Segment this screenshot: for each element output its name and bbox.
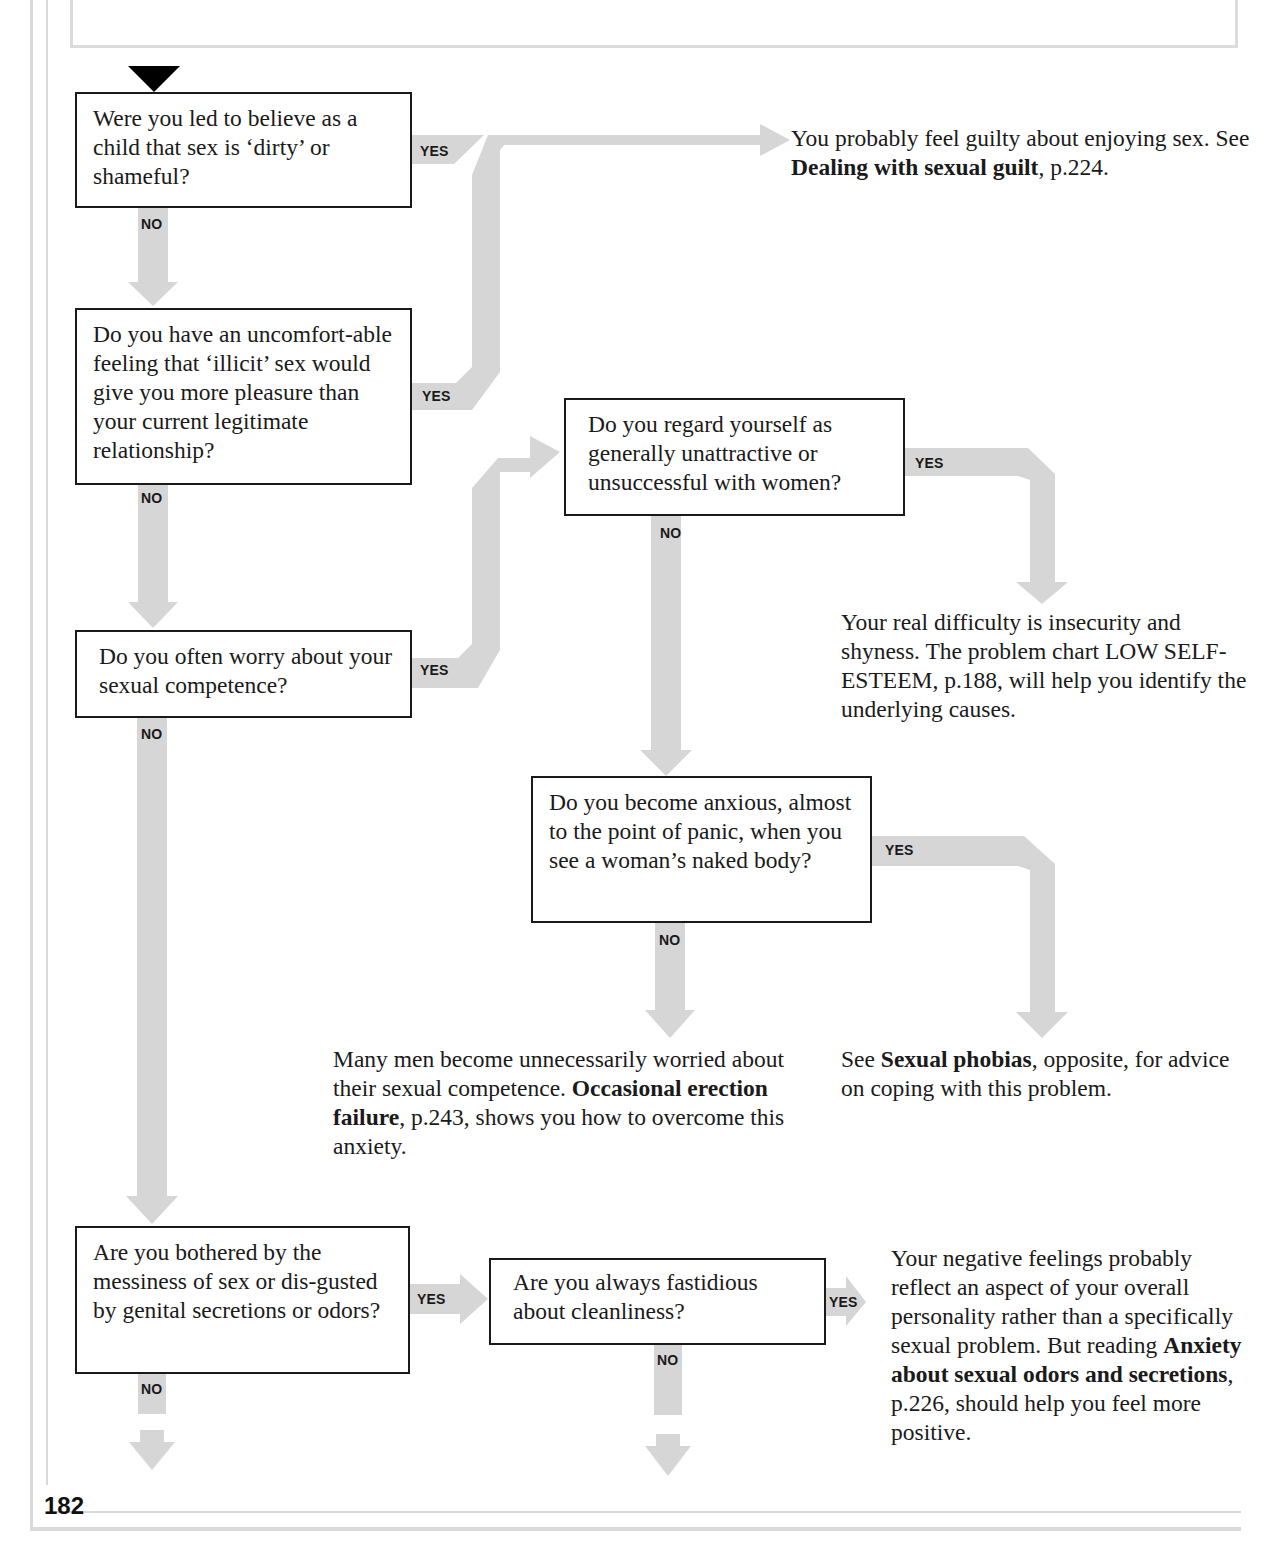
question-box-panic-naked-body: Do you become anxious, almost to the poi…	[531, 776, 872, 923]
no-label-q7: NO	[657, 1352, 678, 1368]
arrow-q3-yes	[412, 436, 560, 688]
yes-label-q6: YES	[417, 1291, 446, 1307]
question-box-messiness: Are you bothered by the messiness of sex…	[75, 1226, 410, 1374]
yes-label-q2: YES	[422, 388, 451, 404]
result-low-self-esteem: Your real difficulty is insecurity and s…	[841, 608, 1256, 724]
question-box-illicit-sex: Do you have an uncomfort-able feeling th…	[75, 308, 412, 485]
arrow-q2-yes-guilt	[412, 124, 790, 410]
no-label-q4: NO	[660, 525, 681, 541]
yes-label-q5: YES	[885, 842, 914, 858]
no-label-q6: NO	[141, 1381, 162, 1397]
question-box-childhood-shame: Were you led to believe as a child that …	[75, 92, 412, 208]
arrow-q3-no	[137, 718, 167, 1198]
result-sexual-guilt: You probably feel guilty about enjoying …	[791, 124, 1256, 182]
no-label-q3: NO	[141, 726, 162, 742]
result-sexual-odors: Your negative feelings probably reflect …	[891, 1244, 1246, 1447]
yes-label-q4: YES	[915, 455, 944, 471]
result-sexual-phobias: See Sexual phobias, opposite, for advice…	[841, 1045, 1241, 1103]
yes-label-q3: YES	[420, 662, 449, 678]
no-label-q1: NO	[141, 216, 162, 232]
no-label-q5: NO	[659, 932, 680, 948]
arrow-q4-yes	[905, 448, 1068, 604]
no-label-q2: NO	[141, 490, 162, 506]
question-box-fastidious: Are you always fastidious about cleanlin…	[489, 1258, 826, 1345]
page-number: 182	[44, 1492, 84, 1520]
yes-label-q1: YES	[420, 143, 449, 159]
start-marker-icon	[128, 66, 180, 92]
question-box-sexual-competence: Do you often worry about your sexual com…	[75, 630, 412, 718]
link-sexual-phobias[interactable]: Sexual phobias	[881, 1046, 1032, 1072]
arrow-q4-no	[651, 516, 681, 752]
result-sexual-competence: Many men become unnecessarily worried ab…	[333, 1045, 798, 1161]
question-box-unattractive: Do you regard yourself as generally unat…	[564, 398, 905, 516]
yes-label-q7: YES	[829, 1294, 858, 1310]
arrow-q5-yes	[872, 836, 1068, 1038]
link-dealing-with-sexual-guilt[interactable]: Dealing with sexual guilt	[791, 154, 1038, 180]
